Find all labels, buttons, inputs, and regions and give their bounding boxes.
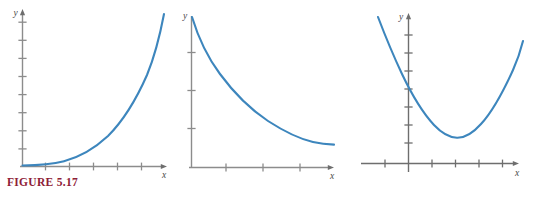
panel2-curve [192,17,334,145]
panel1-curve [23,14,165,166]
figure-container: y x y x [0,0,533,198]
panel3-curve [378,17,523,138]
panel2-x-axis-arrowhead [328,165,334,170]
panel1-y-axis-label: y [13,8,19,18]
panel2-y-axis-label: y [182,11,188,21]
panel3-x-axis-label: x [514,168,520,178]
panel3-x-axis-arrowhead [513,161,519,166]
panel2-x-axis-label: x [329,171,335,181]
figure-plot-area: y x y x [0,0,533,198]
panel3-y-axis-label: y [398,12,404,22]
panel-parabola: y x [361,12,523,178]
panel3-y-axis-arrowhead [406,13,411,19]
panel-exponential-growth: y x [13,8,168,180]
panel1-y-axis-arrowhead [20,9,25,15]
figure-caption: FIGURE 5.17 [7,176,78,188]
panel-exponential-decay: y x [182,11,335,181]
panel1-x-axis-arrowhead [161,164,167,169]
panel1-x-axis-label: x [161,170,167,180]
